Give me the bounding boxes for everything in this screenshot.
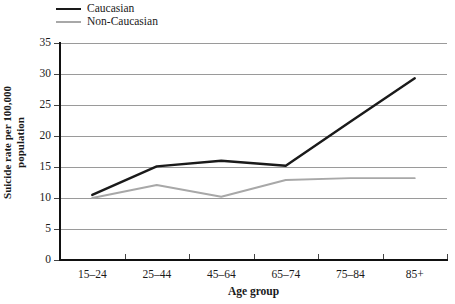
legend-item-non-caucasian: Non-Caucasian <box>56 15 158 28</box>
y-axis-title: Suicide rate per 100,000 population <box>2 50 24 235</box>
y-axis-label: 5 <box>45 223 51 235</box>
chart-legend: Caucasian Non-Caucasian <box>56 2 158 28</box>
y-axis-title-line-2: population <box>13 86 26 199</box>
x-axis-label: 45–64 <box>207 269 236 281</box>
x-axis-label: 85+ <box>406 269 424 281</box>
y-axis-label: 20 <box>40 130 52 142</box>
series-line-non-caucasian <box>92 178 415 198</box>
legend-label-non-caucasian: Non-Caucasian <box>87 15 158 28</box>
y-axis-label: 15 <box>40 161 52 173</box>
x-axis-label: 75–84 <box>336 269 365 281</box>
x-axis-label: 65–74 <box>271 269 300 281</box>
plot-area: 35302520151050 15–2425–4445–6465–7475–84… <box>60 43 447 260</box>
x-axis-title: Age group <box>60 285 447 297</box>
legend-label-caucasian: Caucasian <box>87 2 134 15</box>
x-axis-label: 15–24 <box>78 269 107 281</box>
x-axis-label: 25–44 <box>142 269 171 281</box>
y-axis-label: 10 <box>40 192 52 204</box>
series-lines <box>60 43 447 260</box>
x-axis-line <box>59 259 448 261</box>
y-axis-label: 25 <box>40 99 52 111</box>
y-axis-line <box>59 42 61 261</box>
y-axis-label: 35 <box>40 37 52 49</box>
y-axis-title-line-1: Suicide rate per 100,000 <box>1 86 14 199</box>
legend-swatch-caucasian <box>56 8 81 10</box>
legend-item-caucasian: Caucasian <box>56 2 158 15</box>
y-axis-label: 30 <box>40 68 52 80</box>
chart-figure: Caucasian Non-Caucasian Suicide rate per… <box>0 0 455 304</box>
y-axis-label: 0 <box>45 254 51 266</box>
legend-swatch-non-caucasian <box>56 21 81 23</box>
